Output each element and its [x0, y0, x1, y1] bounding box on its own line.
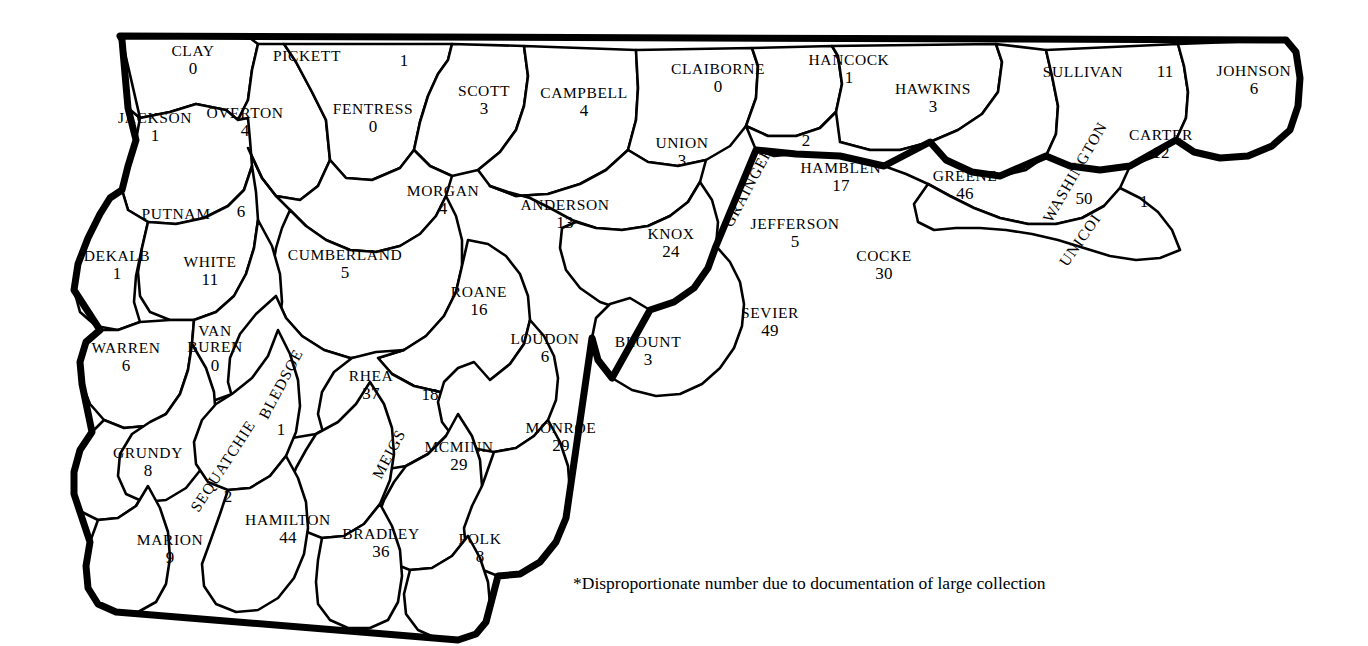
county-label: CLAY0 — [171, 43, 214, 77]
county-count: 1 — [84, 265, 150, 282]
county-count: 2 — [802, 131, 811, 151]
county-count: 3 — [458, 100, 510, 117]
county-name: OVERTON — [206, 105, 283, 121]
county-label: LOUDON6 — [510, 331, 579, 365]
county-count: 30 — [856, 265, 912, 282]
county-label: ROANE16 — [451, 284, 507, 318]
county-label: MARION9 — [137, 532, 203, 566]
tennessee-county-map: CLAY0PICKETT11JACKSON1OVERTON4FENTRESS0S… — [0, 0, 1368, 646]
county-count: 29 — [526, 437, 597, 454]
county-name: PICKETT — [273, 48, 341, 64]
county-count: 9 — [137, 549, 203, 566]
county-count: 1 — [1140, 192, 1149, 212]
county-name: COCKE — [856, 248, 912, 264]
county-count: 6 — [91, 357, 160, 374]
county-name: JOHNSON — [1217, 63, 1292, 79]
county-count: 29 — [424, 456, 493, 473]
county-label: PICKETT1 — [273, 48, 341, 64]
county-count: 1 — [118, 127, 192, 144]
county-count: 44 — [245, 529, 331, 546]
county-label: FENTRESS0 — [333, 101, 414, 135]
county-label: WHITE11 — [184, 254, 237, 288]
county-name: MONROE — [526, 420, 597, 436]
county-label: CLAIBORNE0 — [671, 61, 765, 95]
county-label: CUMBERLAND5 — [288, 247, 403, 281]
county-count: 17 — [801, 177, 882, 194]
county-count: 3 — [656, 152, 709, 169]
county-name: ANDERSON — [520, 197, 609, 213]
county-label: HAMBLEN17 — [801, 160, 882, 194]
county-name: CAMPBELL — [540, 85, 627, 101]
county-label: RHEA37 — [349, 368, 394, 402]
county-count: 8 — [459, 548, 502, 565]
county-name: LOUDON — [510, 331, 579, 347]
county-count: 24 — [647, 243, 694, 260]
county-count: 46 — [933, 185, 998, 202]
county-name: JEFFERSON — [751, 216, 840, 232]
county-count: 6 — [1217, 80, 1292, 97]
county-label: BLOUNT3 — [615, 334, 681, 368]
county-count: 5 — [288, 264, 403, 281]
county-name: GRUNDY — [113, 445, 183, 461]
county-name: MARION — [137, 532, 203, 548]
county-name: HAMILTON — [245, 512, 331, 528]
county-label: ANDERSON13 — [520, 197, 609, 231]
county-count: 1 — [277, 420, 286, 440]
county-label: MONROE29 — [526, 420, 597, 454]
county-count: 1 — [809, 69, 890, 86]
county-name: SCOTT — [458, 83, 510, 99]
county-name: BLOUNT — [615, 334, 681, 350]
county-count: 49 — [741, 322, 799, 339]
county-name: BRADLEY — [342, 526, 419, 542]
county-count: 4 — [206, 122, 283, 139]
county-label: HAWKINS3 — [895, 81, 971, 115]
county-name: CUMBERLAND — [288, 247, 403, 263]
county-name: VANBUREN — [187, 323, 243, 356]
county-count: 0 — [171, 60, 214, 77]
county-name: CLAIBORNE — [671, 61, 765, 77]
county-label: KNOX24 — [647, 226, 694, 260]
county-label: GREENE46 — [933, 168, 998, 202]
county-name: WARREN — [91, 340, 160, 356]
county-label: PUTNAM6 — [141, 206, 210, 222]
county-name: SULLIVAN — [1043, 64, 1123, 80]
county-count: 11 — [184, 271, 237, 288]
county-name: ROANE — [451, 284, 507, 300]
county-count: 36 — [342, 543, 419, 560]
county-label: SEVIER49 — [741, 305, 799, 339]
county-name: GREENE — [933, 168, 998, 184]
county-count: 16 — [451, 301, 507, 318]
county-name: JACKSON — [118, 110, 192, 126]
county-label: BRADLEY36 — [342, 526, 419, 560]
county-label: CARTER12 — [1129, 127, 1193, 161]
county-count: 4 — [407, 200, 480, 217]
county-count: 1 — [400, 51, 409, 71]
county-name: KNOX — [647, 226, 694, 242]
county-label: DEKALB1 — [84, 248, 150, 282]
county-label: CAMPBELL4 — [540, 85, 627, 119]
county-name: CARTER — [1129, 127, 1193, 143]
county-label: COCKE30 — [856, 248, 912, 282]
county-name: UNION — [656, 135, 709, 151]
county-count: 3 — [895, 98, 971, 115]
county-count: 3 — [615, 351, 681, 368]
county-count: 0 — [333, 118, 414, 135]
county-label: HAMILTON44 — [245, 512, 331, 546]
county-count: 2 — [224, 487, 233, 507]
county-label: VANBUREN0 — [187, 323, 243, 374]
county-count: 50 — [1076, 189, 1093, 209]
county-count: 11 — [1157, 62, 1173, 82]
map-footnote: *Disproportionate number due to document… — [573, 573, 1046, 594]
county-count: 13 — [520, 214, 609, 231]
county-name: RHEA — [349, 368, 394, 384]
county-count: 18 — [422, 385, 439, 405]
county-label: MORGAN4 — [407, 183, 480, 217]
county-count: 37 — [349, 385, 394, 402]
county-name: MORGAN — [407, 183, 480, 199]
county-label: JACKSON1 — [118, 110, 192, 144]
county-name: HANCOCK — [809, 52, 890, 68]
county-label: OVERTON4 — [206, 105, 283, 139]
county-name: POLK — [459, 531, 502, 547]
county-name: McMINN — [424, 439, 493, 455]
county-label: WARREN6 — [91, 340, 160, 374]
